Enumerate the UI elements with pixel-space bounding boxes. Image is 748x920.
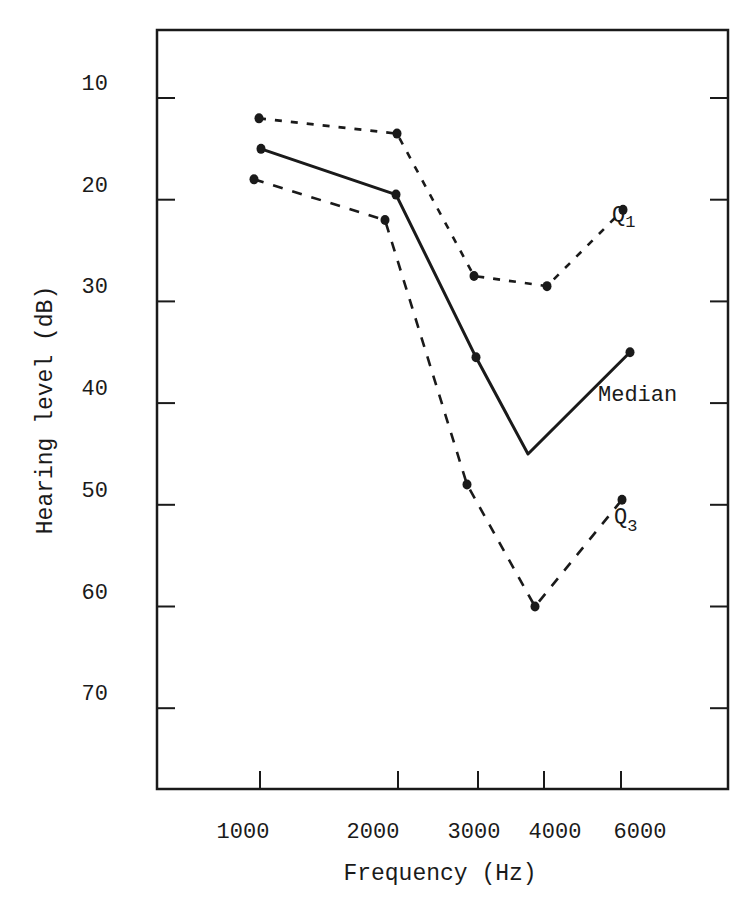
q1-point bbox=[543, 281, 552, 291]
x-axis-title: Frequency (Hz) bbox=[343, 861, 536, 887]
x-tick-label: 2000 bbox=[347, 820, 400, 845]
y-tick-label: 20 bbox=[82, 174, 108, 199]
audiogram-chart: 10203040506070 10002000300040006000 Freq… bbox=[0, 0, 748, 920]
plot-frame bbox=[157, 30, 728, 789]
y-tick-label: 40 bbox=[82, 377, 108, 402]
y-tick-label: 10 bbox=[82, 72, 108, 97]
y-tick-label: 60 bbox=[82, 581, 108, 606]
y-tick-label: 50 bbox=[82, 479, 108, 504]
q3-point bbox=[381, 215, 390, 225]
median-point bbox=[472, 352, 481, 362]
q1-label: Q1 bbox=[612, 203, 635, 232]
y-axis-title: Hearing level (dB) bbox=[33, 286, 59, 534]
y-tick-label: 30 bbox=[82, 275, 108, 300]
q3-label: Q3 bbox=[614, 505, 637, 536]
median-point bbox=[392, 190, 401, 200]
median-point bbox=[626, 347, 635, 357]
q3-point bbox=[463, 479, 472, 489]
q1-point bbox=[470, 271, 479, 281]
median-line bbox=[261, 149, 630, 454]
x-axis-ticks: 10002000300040006000 bbox=[217, 771, 667, 845]
q3-point bbox=[618, 495, 627, 505]
x-tick-label: 6000 bbox=[614, 820, 667, 845]
median-point bbox=[257, 144, 266, 154]
q3-point bbox=[250, 174, 259, 184]
x-tick-label: 1000 bbox=[217, 820, 270, 845]
x-tick-label: 3000 bbox=[448, 820, 501, 845]
data-series bbox=[250, 113, 635, 611]
q1-line bbox=[259, 118, 623, 286]
q1-point bbox=[393, 129, 402, 139]
x-tick-label: 4000 bbox=[529, 820, 582, 845]
y-tick-label: 70 bbox=[82, 682, 108, 707]
q3-point bbox=[531, 602, 540, 612]
q3-line bbox=[254, 179, 622, 606]
median-label: Median bbox=[598, 383, 677, 408]
q1-point bbox=[255, 113, 264, 123]
